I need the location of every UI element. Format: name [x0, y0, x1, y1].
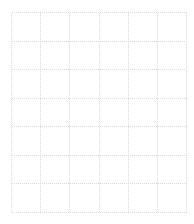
grid-svg [0, 0, 194, 224]
page-canvas: — — — —— [0, 0, 194, 224]
grid-line-group [12, 13, 187, 213]
dotted-grid [0, 0, 194, 224]
